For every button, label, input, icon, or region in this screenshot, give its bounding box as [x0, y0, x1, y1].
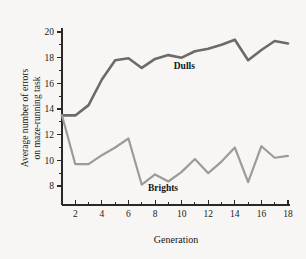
- x-tick-label: 2: [73, 209, 78, 219]
- x-tick-label: 8: [153, 209, 158, 219]
- x-tick-label: 10: [177, 209, 187, 219]
- x-axis-ticks: 24681012141618: [73, 200, 293, 219]
- y-tick-label: 16: [45, 79, 55, 89]
- series-label-dulls: Dulls: [174, 61, 195, 71]
- y-tick-label: 20: [45, 27, 55, 37]
- y-axis-title-line1: Average number of errors: [19, 68, 30, 167]
- x-axis-title: Generation: [154, 234, 198, 245]
- y-tick-label: 18: [45, 53, 55, 63]
- y-axis-title-line2: on maze-running task: [31, 76, 42, 159]
- series-label-brights: Brights: [148, 183, 178, 193]
- y-tick-label: 8: [49, 181, 54, 191]
- x-tick-label: 6: [126, 209, 131, 219]
- y-axis-ticks: 8101214161820: [45, 27, 63, 191]
- x-tick-label: 18: [283, 209, 293, 219]
- x-tick-label: 4: [100, 209, 105, 219]
- chart-figure: 8101214161820 24681012141618 Dulls Brigh…: [0, 0, 306, 259]
- x-tick-label: 14: [230, 209, 240, 219]
- series-line-brights: [62, 115, 288, 184]
- y-tick-label: 10: [45, 156, 55, 166]
- x-tick-label: 12: [203, 209, 213, 219]
- y-tick-label: 12: [45, 130, 55, 140]
- maze-running-errors-line-chart: 8101214161820 24681012141618 Dulls Brigh…: [0, 0, 306, 259]
- x-tick-label: 16: [257, 209, 267, 219]
- series-line-dulls: [62, 40, 288, 116]
- y-axis-title: Average number of errors on maze-running…: [19, 68, 42, 167]
- y-tick-label: 14: [45, 104, 55, 114]
